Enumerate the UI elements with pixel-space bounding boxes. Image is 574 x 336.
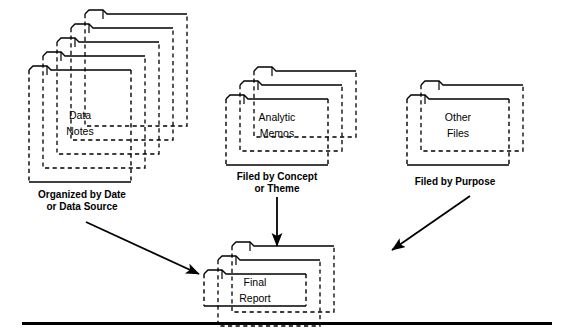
folder-label-final-report-line1: Final [244,276,267,288]
diagram-canvas: Data Notes Organized by Date or Data Sou… [0,0,574,336]
caption-other-files-line1: Filed by Purpose [415,176,496,187]
group-data-notes: Data Notes Organized by Date or Data Sou… [29,10,187,212]
caption-data-notes-line2: or Data Source [46,201,118,212]
caption-data-notes-line1: Organized by Date [38,189,126,200]
arrow-data-notes-to-final-report [86,222,199,274]
folder-label-analytic-memos-line1: Analytic [259,111,296,123]
group-final-report: Final Report [204,242,334,326]
diagram-svg: Data Notes Organized by Date or Data Sou… [0,0,574,336]
folder-label-final-report-line2: Report [239,292,271,304]
caption-analytic-memos-line2: or Theme [254,183,299,194]
folder-label-data-notes-line1: Data [69,109,91,121]
arrows [86,196,470,274]
folder-final-report-2 [218,256,320,326]
folder-label-data-notes-line2: Notes [66,125,93,137]
group-other-files: Other Files Filed by Purpose [407,81,523,187]
caption-analytic-memos-line1: Filed by Concept [237,171,318,182]
folder-label-other-files-line1: Other [445,111,472,123]
arrow-other-files-to-final-report [392,196,470,250]
folder-other-files-2 [421,81,523,151]
folder-label-analytic-memos-line2: Memos [260,127,294,139]
group-analytic-memos: Analytic Memos Filed by Concept or Theme [226,67,356,194]
folder-data-notes-1 [29,66,131,182]
folder-label-other-files-line2: Files [447,127,469,139]
